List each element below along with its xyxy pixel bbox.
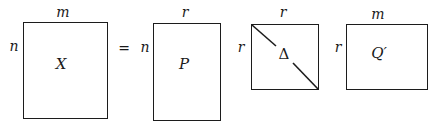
matrix-delta-name: Δ	[279, 47, 290, 62]
matrix-qprime-rows-label: r	[335, 40, 342, 54]
matrix-qprime-cols-label: m	[371, 7, 384, 21]
matrix-qprime-name: Q′	[371, 46, 387, 61]
matrix-delta-cols-label: r	[280, 5, 287, 19]
matrix-delta-rows-label: r	[238, 40, 245, 54]
